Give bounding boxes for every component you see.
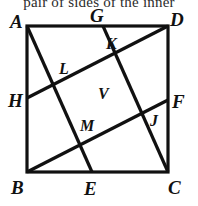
label-F: F bbox=[172, 92, 185, 111]
label-G: G bbox=[90, 6, 104, 25]
label-L: L bbox=[59, 61, 69, 77]
label-M: M bbox=[80, 118, 94, 134]
label-K: K bbox=[106, 36, 117, 52]
label-D: D bbox=[170, 10, 184, 29]
label-C: C bbox=[168, 178, 181, 197]
label-J: J bbox=[150, 113, 158, 129]
label-H: H bbox=[8, 91, 23, 110]
geometry-figure bbox=[0, 0, 198, 206]
figure-page: pair of sides of the inner AGDHFBECKLVMJ bbox=[0, 0, 198, 206]
label-A: A bbox=[10, 12, 23, 31]
label-V: V bbox=[98, 86, 109, 102]
label-B: B bbox=[11, 178, 24, 197]
label-E: E bbox=[84, 179, 97, 198]
